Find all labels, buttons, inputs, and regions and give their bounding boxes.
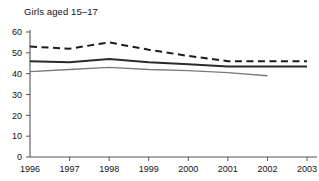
y-axis-tick-label: 0 <box>17 152 22 162</box>
y-axis-tick-label: 50 <box>12 48 22 58</box>
chart-series-solid-thick-middle <box>30 59 307 66</box>
x-axis-tick-label: 2000 <box>178 164 198 174</box>
chart-series-dashed-upper <box>30 42 307 61</box>
x-axis-tick-label: 2003 <box>297 164 317 174</box>
chart-container: Girls aged 15–17 01020304050601996199719… <box>0 0 319 181</box>
y-axis-tick-label: 40 <box>12 69 22 79</box>
chart-plot-area: 0102030405060199619971998199920002001200… <box>0 0 319 181</box>
y-axis-tick-label: 60 <box>12 27 22 37</box>
x-axis-tick-label: 1999 <box>139 164 159 174</box>
x-axis-tick-label: 1998 <box>99 164 119 174</box>
y-axis-tick-label: 20 <box>12 111 22 121</box>
y-axis-tick-label: 10 <box>12 131 22 141</box>
y-axis-tick-label: 30 <box>12 90 22 100</box>
x-axis-tick-label: 2001 <box>218 164 238 174</box>
x-axis-tick-label: 2002 <box>257 164 277 174</box>
x-axis-tick-label: 1997 <box>60 164 80 174</box>
x-axis-tick-label: 1996 <box>20 164 40 174</box>
chart-series-solid-thin-lower <box>30 67 267 75</box>
